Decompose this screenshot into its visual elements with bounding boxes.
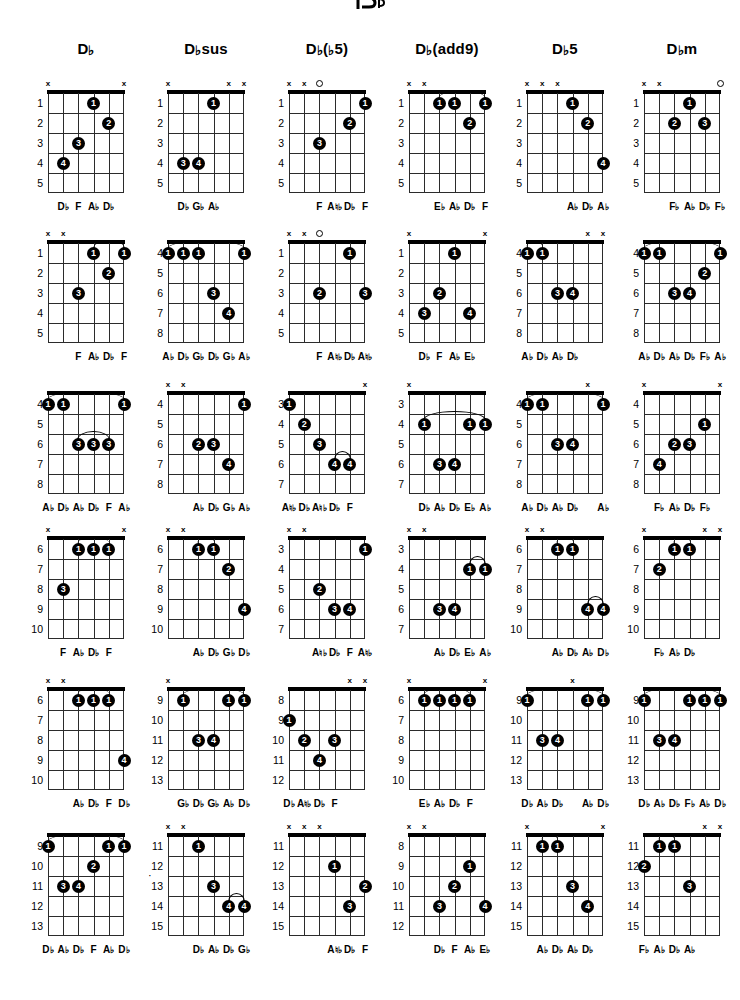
fret-number: 9 — [623, 695, 639, 706]
string-note-label: F — [476, 202, 494, 212]
fret-line — [409, 916, 485, 917]
finger-dot: 3 — [683, 880, 696, 893]
fret-line — [168, 750, 244, 751]
nut-bar — [167, 391, 245, 395]
string-line — [304, 394, 305, 494]
fret-number: 7 — [27, 459, 43, 470]
string-note-label: G♭ — [235, 945, 253, 955]
fret-line — [289, 414, 365, 415]
fret-line — [527, 750, 603, 751]
fret-number: 6 — [27, 695, 43, 706]
string-line — [705, 394, 706, 494]
finger-dot: 1 — [698, 418, 711, 431]
fretboard-grid — [644, 539, 720, 639]
finger-dot: 1 — [448, 247, 461, 260]
fret-line — [289, 454, 365, 455]
string-line — [674, 93, 675, 193]
fret-line — [48, 710, 124, 711]
fret-number: 5 — [268, 178, 284, 189]
muted-string-marker: x — [716, 380, 725, 389]
fret-line — [168, 579, 244, 580]
fret-line — [644, 619, 720, 620]
fret-line — [168, 414, 244, 415]
fret-line — [168, 173, 244, 174]
finger-dot: 2 — [668, 438, 681, 451]
finger-dot: 1 — [118, 840, 131, 853]
fret-number: 4 — [268, 308, 284, 319]
string-line — [109, 93, 110, 193]
fret-line — [644, 153, 720, 154]
finger-dot: 1 — [238, 694, 251, 707]
fret-line — [409, 599, 485, 600]
finger-dot: 3 — [359, 287, 372, 300]
fret-line — [527, 559, 603, 560]
finger-dot: 4 — [448, 458, 461, 471]
fret-line — [289, 559, 365, 560]
finger-dot: 1 — [433, 694, 446, 707]
string-line — [424, 243, 425, 343]
finger-dot: 4 — [551, 734, 564, 747]
string-line — [470, 836, 471, 936]
finger-dot: 2 — [698, 267, 711, 280]
string-note-label: F♭ — [711, 202, 729, 212]
finger-dot: 1 — [72, 543, 85, 556]
fret-number: 9 — [147, 604, 163, 615]
fret-number: 8 — [27, 584, 43, 595]
string-note-label: D♭ — [681, 648, 699, 658]
fret-number: 3 — [268, 288, 284, 299]
fret-line — [527, 474, 603, 475]
finger-dot: 1 — [118, 247, 131, 260]
finger-dot: 2 — [102, 267, 115, 280]
fretboard-grid — [48, 243, 124, 343]
fret-line — [48, 303, 124, 304]
row-separator-dot: · — [148, 869, 152, 881]
open-string-marker — [717, 80, 724, 87]
fret-number: 13 — [623, 775, 639, 786]
fretboard-grid — [289, 394, 365, 494]
fret-line — [289, 153, 365, 154]
finger-dot: 1 — [102, 694, 115, 707]
page-top-mark-icon — [352, 0, 388, 12]
fret-number: 6 — [147, 544, 163, 555]
fret-line — [289, 303, 365, 304]
fret-line — [48, 283, 124, 284]
muted-string-marker: x — [361, 380, 370, 389]
finger-dot: 3 — [683, 438, 696, 451]
fret-line — [48, 133, 124, 134]
fret-line — [527, 323, 603, 324]
fret-number: 6 — [147, 288, 163, 299]
finger-dot: 3 — [433, 458, 446, 471]
finger-dot: 1 — [521, 247, 534, 260]
string-line — [659, 539, 660, 639]
nut-bar — [288, 536, 366, 540]
fret-number: 6 — [506, 288, 522, 299]
muted-string-marker: x — [44, 676, 53, 685]
string-note-label: D♭ — [564, 503, 582, 513]
fret-line — [168, 454, 244, 455]
string-line — [183, 394, 184, 494]
string-line — [424, 836, 425, 936]
fret-line — [168, 263, 244, 264]
fret-number: 9 — [27, 604, 43, 615]
fret-number: 1 — [388, 248, 404, 259]
fret-number: 7 — [388, 715, 404, 726]
string-note-label: F — [356, 202, 374, 212]
string-line — [588, 93, 589, 193]
muted-string-marker: x — [44, 79, 53, 88]
string-line — [705, 836, 706, 936]
fret-line — [644, 283, 720, 284]
string-line — [229, 836, 230, 936]
fret-number: 2 — [388, 118, 404, 129]
string-note-label: A♭ — [235, 352, 253, 362]
fret-number: 5 — [388, 439, 404, 450]
fret-line — [289, 323, 365, 324]
finger-dot: 4 — [597, 157, 610, 170]
nut-bar — [408, 240, 486, 244]
muted-string-marker: x — [568, 676, 577, 685]
fret-line — [409, 283, 485, 284]
fret-number: 7 — [27, 715, 43, 726]
fretboard-grid — [48, 93, 124, 193]
muted-string-marker: x — [405, 229, 414, 238]
fret-number: 2 — [623, 118, 639, 129]
muted-string-marker: x — [523, 79, 532, 88]
